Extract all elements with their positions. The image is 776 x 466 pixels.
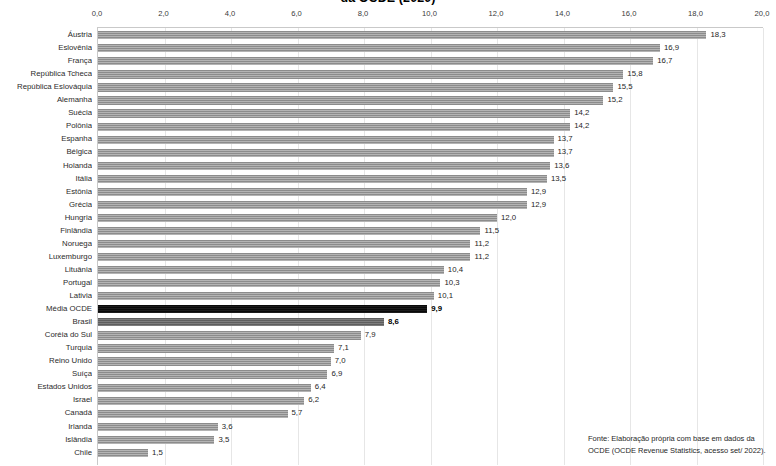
bar-b-lgica: [98, 149, 554, 157]
bar-estados-unidos: [98, 384, 311, 392]
bar--ustria: [98, 31, 706, 39]
x-tick-label-4: 4,0: [225, 9, 236, 18]
bar-alemanha: [98, 96, 603, 104]
bar-espanha: [98, 136, 554, 144]
bar-value-label: 1,5: [152, 446, 163, 461]
source-line-2: OCDE (OCDE Revenue Statistics, acesso se…: [588, 445, 774, 457]
bar-irlanda: [98, 423, 218, 431]
bar-gr-cia: [98, 201, 527, 209]
bar-noruega: [98, 240, 470, 248]
bar-rep-blica-eslov-quia: [98, 83, 613, 91]
x-tick-label-0: 0,0: [92, 9, 103, 18]
x-tick-label-14: 14,0: [555, 9, 570, 18]
x-tick-label-8: 8,0: [358, 9, 369, 18]
x-tick-label-6: 6,0: [291, 9, 302, 18]
bar-holanda: [98, 162, 550, 170]
bar-m-dia-ocde: [98, 305, 427, 313]
bar-brasil: [98, 318, 384, 326]
bar-turquia: [98, 344, 334, 352]
source-line-1: Fonte: Elaboração própria com base em da…: [588, 433, 774, 445]
bar-pol-nia: [98, 123, 570, 131]
bar-est-nia: [98, 188, 527, 196]
bar-finl-ndia: [98, 227, 480, 235]
bar-cor-ia-do-sul: [98, 331, 361, 339]
bar-hungria: [98, 214, 497, 222]
bar-canad-: [98, 410, 288, 418]
x-tick-label-18: 18,0: [688, 9, 703, 18]
bar-isl-ndia: [98, 436, 214, 444]
bar-su-cia: [98, 109, 570, 117]
bar-portugal: [98, 279, 440, 287]
x-tick-label-2: 2,0: [158, 9, 169, 18]
bar-luxemburgo: [98, 253, 470, 261]
x-tick-label-10: 10,0: [422, 9, 437, 18]
x-axis-tick-labels: 0,02,04,06,08,010,012,014,016,018,020,0: [0, 9, 776, 23]
x-tick-label-12: 12,0: [489, 9, 504, 18]
x-tick-label-16: 16,0: [622, 9, 637, 18]
bar-fran-a: [98, 57, 653, 65]
bar-eslov-nia: [98, 44, 660, 52]
bar-chile: [98, 449, 148, 457]
source-note: Fonte: Elaboração própria com base em da…: [588, 433, 774, 456]
category-label-chile: Chile: [0, 446, 92, 461]
bar-lativia: [98, 292, 434, 300]
bar-it-lia: [98, 175, 547, 183]
x-tick-label-20: 20,0: [755, 9, 770, 18]
bar-rows-container: Áustria18,3Eslovênia16,9França16,7Repúbl…: [0, 27, 776, 464]
bar-rep-blica-tcheca: [98, 70, 623, 78]
bar-israel: [98, 397, 304, 405]
bar-litu-nia: [98, 266, 444, 274]
bar-reino-unido: [98, 357, 331, 365]
chart-title: da OCDE (2020): [0, 0, 776, 5]
bar-su-a: [98, 370, 327, 378]
